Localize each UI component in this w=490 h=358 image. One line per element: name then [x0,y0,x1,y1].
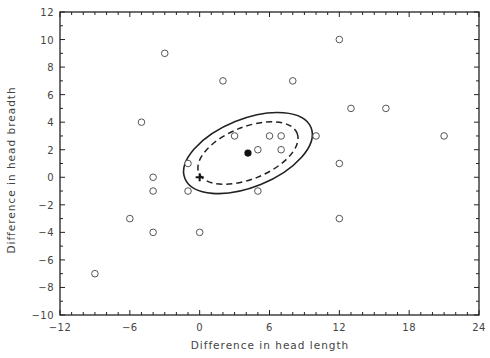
y-tick-label: 8 [47,62,54,73]
y-tick-label: 2 [47,145,54,156]
data-point [255,188,262,195]
data-point [289,78,296,85]
x-tick-label: 12 [332,322,346,333]
data-point [150,229,157,236]
data-point [441,133,448,140]
data-point [196,229,203,236]
data-point [336,160,343,167]
y-tick-labels: −10−8−6−4−2024681012 [31,7,54,321]
data-point [336,36,343,43]
x-axis-label: Difference in head length [191,339,350,351]
data-point [383,105,390,112]
y-tick-label: −6 [38,255,54,266]
x-tick-label: −6 [122,322,138,333]
data-point [185,160,192,167]
scatter-chart: −12−606121824 −10−8−6−4−2024681012 Diffe… [0,0,490,358]
x-tick-labels: −12−606121824 [49,322,486,333]
data-point [348,105,355,112]
data-point [127,215,134,222]
y-tick-label: −4 [38,227,54,238]
plot-frame [60,12,479,315]
data-point [185,188,192,195]
data-point [313,133,320,140]
data-point [138,119,145,126]
data-point [266,133,273,140]
data-point [92,270,99,277]
y-tick-label: 10 [40,35,54,46]
data-point [278,133,285,140]
x-tick-label: −12 [49,322,72,333]
data-point [150,188,157,195]
data-point [336,215,343,222]
data-points [92,36,448,277]
data-point [161,50,168,57]
y-tick-label: 4 [47,117,54,128]
x-tick-label: 24 [472,322,486,333]
data-point [220,78,227,85]
axis-ticks [60,12,479,315]
data-point [150,174,157,181]
data-point [255,146,262,153]
y-tick-label: 6 [47,90,54,101]
y-axis-label: Difference in head breadth [5,86,17,253]
x-tick-label: 6 [266,322,273,333]
x-tick-label: 18 [402,322,416,333]
origin-plus-marker [196,173,204,181]
x-tick-label: 0 [196,322,203,333]
mean-point [244,149,251,156]
data-point [231,133,238,140]
y-tick-label: −10 [31,310,54,321]
y-tick-label: −2 [38,200,54,211]
y-tick-label: 0 [47,172,54,183]
y-tick-label: 12 [40,7,54,18]
data-point [278,146,285,153]
y-tick-label: −8 [38,282,54,293]
